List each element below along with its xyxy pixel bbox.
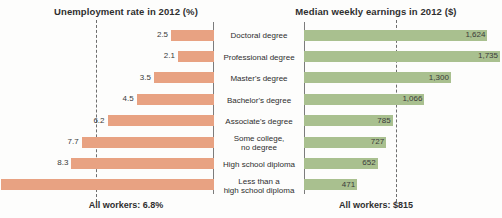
earnings-value-label: 1,624 [457, 28, 485, 42]
earnings-row: 785 [304, 111, 502, 132]
earnings-row: 1,624 [304, 26, 502, 47]
category-label: Bachelor's degree [214, 90, 304, 111]
category-label-column: Doctoral degreeProfessional degreeMaster… [214, 22, 304, 194]
unemployment-bar [178, 51, 214, 62]
unemployment-bar [154, 72, 214, 83]
unemployment-plot-area: 2.52.13.54.56.27.78.312.4 [0, 22, 214, 194]
earnings-value-label: 1,066 [394, 92, 422, 106]
unemployment-value-label: 6.2 [93, 114, 104, 128]
unemployment-row: 8.3 [0, 154, 214, 175]
category-label: Master's degree [214, 68, 304, 89]
earnings-value-label: 785 [363, 114, 391, 128]
earnings-value-label: 471 [327, 178, 355, 192]
unemployment-row: 12.4 [0, 175, 214, 196]
category-label: Professional degree [214, 47, 304, 68]
earnings-plot-area: 1,6241,7351,3001,066785727652471 [304, 22, 502, 194]
category-label: Doctoral degree [214, 26, 304, 47]
left-average-label: All workers: 6.8% [0, 200, 252, 210]
unemployment-value-label: 2.5 [157, 28, 168, 42]
earnings-value-label: 1,735 [470, 49, 498, 63]
unemployment-bar [108, 115, 215, 126]
unemployment-row: 7.7 [0, 133, 214, 154]
category-label: Less than ahigh school diploma [214, 175, 304, 196]
earnings-value-label: 652 [348, 156, 376, 170]
unemployment-bar [82, 137, 214, 148]
unemployment-row: 2.1 [0, 47, 214, 68]
unemployment-row: 4.5 [0, 90, 214, 111]
category-label: Associate's degree [214, 111, 304, 132]
category-label: Some college,no degree [214, 133, 304, 154]
unemployment-value-label: 4.5 [123, 92, 134, 106]
earnings-row: 1,066 [304, 90, 502, 111]
earnings-row: 1,735 [304, 47, 502, 68]
education-pays-chart: Unemployment rate in 2012 (%) Median wee… [0, 0, 502, 218]
unemployment-row: 2.5 [0, 26, 214, 47]
unemployment-bar [171, 30, 214, 41]
earnings-value-label: 1,300 [421, 71, 449, 85]
earnings-row: 727 [304, 133, 502, 154]
earnings-row: 1,300 [304, 68, 502, 89]
category-label: High school diploma [214, 154, 304, 175]
unemployment-row: 6.2 [0, 111, 214, 132]
earnings-row: 652 [304, 154, 502, 175]
unemployment-row: 3.5 [0, 68, 214, 89]
unemployment-value-label: 2.1 [164, 49, 175, 63]
unemployment-bar [71, 158, 214, 169]
earnings-value-label: 727 [356, 135, 384, 149]
right-average-label: All workers: $815 [250, 200, 502, 210]
left-panel-title: Unemployment rate in 2012 (%) [0, 6, 252, 17]
earnings-row: 471 [304, 175, 502, 196]
unemployment-bar [137, 94, 214, 105]
unemployment-value-label: 3.5 [140, 71, 151, 85]
unemployment-bar [1, 179, 214, 190]
unemployment-value-label: 7.7 [68, 135, 79, 149]
right-panel-title: Median weekly earnings in 2012 ($) [250, 6, 502, 17]
unemployment-value-label: 8.3 [57, 156, 68, 170]
